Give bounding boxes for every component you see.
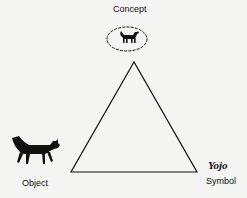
object-cat-icon (12, 136, 60, 164)
symbol-word: Yojo (208, 159, 228, 171)
symbol-label: Symbol (206, 176, 236, 186)
object-label: Object (22, 178, 48, 188)
concept-cat-icon (120, 31, 139, 43)
triangle-edges (71, 62, 197, 172)
concept-label: Concept (113, 4, 147, 14)
